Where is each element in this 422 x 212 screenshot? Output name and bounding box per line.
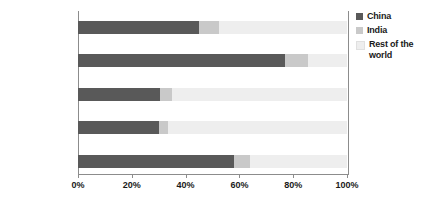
legend-swatch-icon bbox=[356, 27, 363, 34]
bar-segment-china bbox=[78, 155, 234, 168]
legend-label: India bbox=[367, 25, 387, 36]
bar-segment-rest-of-the-world bbox=[308, 54, 347, 67]
stacked-bar bbox=[78, 88, 347, 101]
stacked-bar bbox=[78, 54, 347, 67]
x-axis-tick bbox=[293, 174, 294, 178]
bar-segment-india bbox=[159, 121, 168, 134]
bar-segment-china bbox=[78, 21, 199, 34]
legend-item-china[interactable]: China bbox=[356, 11, 422, 22]
x-axis-tick bbox=[186, 174, 187, 178]
x-axis-tick-label: 100% bbox=[335, 180, 358, 190]
legend-label: China bbox=[367, 11, 391, 22]
legend-item-rest-of-the-world[interactable]: Rest of the world bbox=[356, 39, 422, 61]
stacked-bar bbox=[78, 155, 347, 168]
bar-segment-china bbox=[78, 121, 159, 134]
bar-segment-rest-of-the-world bbox=[219, 21, 347, 34]
bar-row: Energy demand bbox=[78, 21, 347, 34]
x-axis-tick bbox=[132, 174, 133, 178]
x-axis-tick bbox=[78, 174, 79, 178]
bar-row: Oil demand bbox=[78, 88, 347, 101]
bar-row: Coal demand bbox=[78, 54, 347, 67]
bar-segment-india bbox=[160, 88, 172, 101]
bar-row: Oil imports bbox=[78, 121, 347, 134]
bar-segment-india bbox=[285, 54, 308, 67]
bar-segment-rest-of-the-world bbox=[168, 121, 347, 134]
legend-item-india[interactable]: India bbox=[356, 25, 422, 36]
bar-segment-rest-of-the-world bbox=[250, 155, 347, 168]
x-axis-tick bbox=[347, 174, 348, 178]
bar-row: CO2 emissions bbox=[78, 155, 347, 168]
x-axis-tick-label: 20% bbox=[123, 180, 141, 190]
x-axis-tick-label: 40% bbox=[177, 180, 195, 190]
chart-legend: ChinaIndiaRest of the world bbox=[356, 11, 422, 64]
legend-swatch-icon bbox=[356, 13, 363, 20]
x-axis-tick bbox=[239, 174, 240, 178]
legend-swatch-icon bbox=[356, 41, 365, 50]
x-axis-tick-label: 80% bbox=[284, 180, 302, 190]
stacked-bar-chart: Energy demandCoal demandOil demandOil im… bbox=[0, 0, 422, 212]
legend-label: Rest of the world bbox=[369, 39, 422, 61]
x-axis-tick-label: 60% bbox=[230, 180, 248, 190]
stacked-bar bbox=[78, 121, 347, 134]
bar-segment-rest-of-the-world bbox=[172, 88, 347, 101]
bar-segment-india bbox=[199, 21, 219, 34]
bar-segment-china bbox=[78, 54, 285, 67]
x-axis-tick-label: 0% bbox=[71, 180, 84, 190]
bar-segment-china bbox=[78, 88, 160, 101]
bar-segment-india bbox=[234, 155, 250, 168]
stacked-bar bbox=[78, 21, 347, 34]
